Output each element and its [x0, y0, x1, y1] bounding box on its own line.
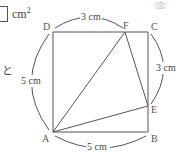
geometry-diagram: 3 cm 3 cm 5 cm 5 cm A B C D E F	[0, 0, 184, 155]
segment-AE	[53, 106, 148, 132]
point-B: B	[151, 133, 158, 144]
dim-CE: 3 cm	[156, 62, 176, 73]
segment-AF	[53, 32, 125, 132]
dim-AB: 5 cm	[87, 141, 107, 152]
point-E: E	[151, 104, 157, 115]
point-A: A	[42, 133, 50, 144]
dim-DF: 3 cm	[81, 11, 101, 22]
point-C: C	[151, 21, 158, 32]
point-D: D	[43, 21, 50, 32]
dim-AD: 5 cm	[21, 75, 41, 86]
point-F: F	[123, 20, 129, 31]
segment-FE	[125, 32, 148, 106]
